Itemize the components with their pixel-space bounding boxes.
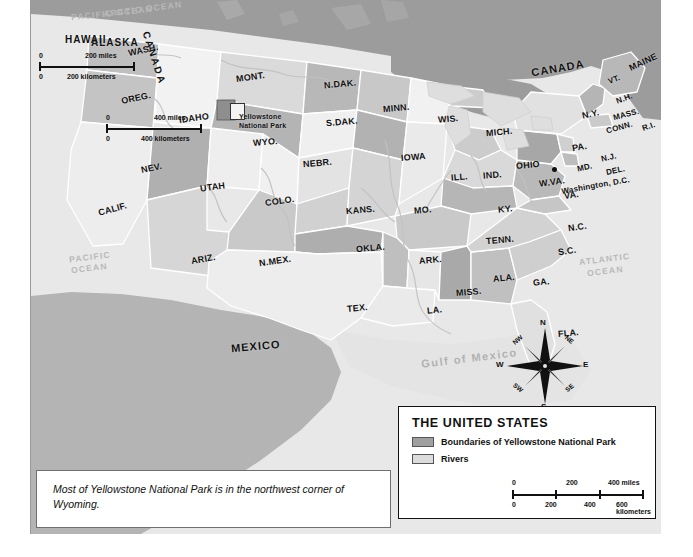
legend-scale-bar: 0 200 400 miles 0 200 400 600 kilometers: [512, 479, 652, 488]
legend-label-boundaries: Boundaries of Yellowstone National Park: [441, 437, 616, 447]
legend-title: THE UNITED STATES: [412, 416, 642, 430]
hawaii-scale-miles-zero: 0: [39, 52, 43, 59]
alaska-scale-km-zero: 0: [106, 135, 110, 142]
legend-label-rivers: Rivers: [441, 454, 469, 464]
hawaii-scale-bar: 0 200 miles 0 200 kilometers: [39, 52, 144, 61]
alaska-scale-bar: 0 400 miles 0 400 kilometers: [106, 114, 206, 123]
state-label-la: LA.: [427, 304, 443, 315]
state-label-ill: ILL.: [451, 171, 469, 182]
state-label-ohio: OHIO: [516, 159, 541, 171]
hawaii-scale-km-zero: 0: [39, 73, 43, 80]
legend-scale-miles-0: 0: [512, 479, 516, 486]
legend-scale-km-200: 200: [545, 501, 557, 508]
state-label-wyo: WYO.: [253, 136, 279, 148]
hawaii-label: HAWAII: [65, 34, 107, 45]
alaska-scale-miles-zero: 0: [106, 114, 110, 121]
state-label-ark: ARK.: [419, 254, 443, 266]
caption-box: Most of Yellowstone National Park is in …: [36, 470, 391, 528]
legend-scale-miles-200: 200: [566, 479, 578, 486]
compass-label-n: N: [540, 318, 546, 327]
legend-scale-km-400: 400: [584, 501, 596, 508]
state-label-tex: TEX.: [347, 302, 369, 314]
legend-swatch-boundaries: [412, 437, 434, 447]
washington-dc-marker: [552, 167, 557, 172]
map-sheet: WASH.OREG.CALIF.IDAHONEV.UTAHARIZ.MONT.W…: [30, 0, 661, 534]
compass-label-w: W: [496, 360, 504, 369]
compass-rose: N S W E NW NE SW SE: [493, 314, 597, 418]
legend-scale-km-unit: 600 kilometers: [616, 501, 652, 515]
caption-text: Most of Yellowstone National Park is in …: [53, 482, 374, 512]
legend-item-rivers: Rivers: [412, 454, 642, 464]
alaska-scale-miles-label: 400 miles: [154, 114, 186, 121]
state-label-mo: MO.: [414, 204, 432, 215]
map-page: WASH.OREG.CALIF.IDAHONEV.UTAHARIZ.MONT.W…: [0, 0, 693, 557]
legend-scale-km-0: 0: [512, 501, 516, 508]
legend-scale-miles-unit: 400 miles: [608, 479, 640, 486]
yellowstone-callout-line2: National Park: [239, 122, 286, 131]
legend-item-boundaries: Boundaries of Yellowstone National Park: [412, 437, 642, 447]
state-label-ind: IND.: [483, 169, 503, 181]
state-label-iowa: IOWA: [401, 151, 427, 163]
state-label-ky: KY.: [498, 203, 513, 214]
state-label-ala: ALA.: [493, 272, 516, 284]
yellowstone-callout-line1: Yellowstone: [239, 113, 286, 122]
hawaii-scale-miles-label: 200 miles: [85, 52, 117, 59]
legend-swatch-rivers: [412, 454, 434, 464]
alaska-scale-km-label: 400 kilometers: [141, 135, 190, 142]
yellowstone-callout: YellowstoneNational Park: [239, 113, 286, 130]
compass-label-e: E: [583, 360, 588, 369]
legend-box: THE UNITED STATES Boundaries of Yellowst…: [398, 406, 656, 519]
state-label-ga: GA.: [533, 276, 550, 287]
hawaii-scale-km-label: 200 kilometers: [67, 73, 116, 80]
state-label-wis: WIS.: [438, 113, 459, 125]
